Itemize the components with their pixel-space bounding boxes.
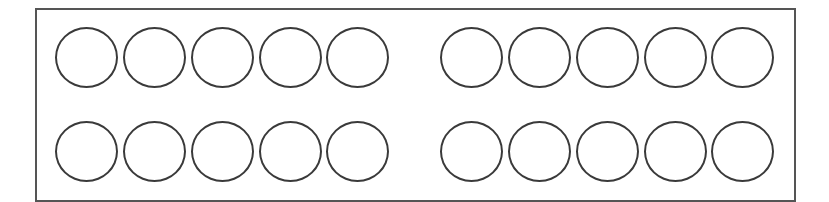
circle-icon xyxy=(711,27,774,88)
circle-icon xyxy=(440,121,503,182)
circle-icon xyxy=(123,27,186,88)
circle-icon xyxy=(711,121,774,182)
circle-icon xyxy=(576,27,639,88)
circle-icon xyxy=(644,121,707,182)
circle-icon xyxy=(123,121,186,182)
circle-icon xyxy=(508,27,571,88)
circle-icon xyxy=(644,27,707,88)
circle-icon xyxy=(55,27,118,88)
circle-icon xyxy=(191,121,254,182)
circle-icon xyxy=(259,27,322,88)
circle-icon xyxy=(576,121,639,182)
circle-icon xyxy=(55,121,118,182)
circle-icon xyxy=(326,27,389,88)
circle-icon xyxy=(440,27,503,88)
circle-icon xyxy=(508,121,571,182)
circle-icon xyxy=(326,121,389,182)
circle-icon xyxy=(191,27,254,88)
circle-icon xyxy=(259,121,322,182)
